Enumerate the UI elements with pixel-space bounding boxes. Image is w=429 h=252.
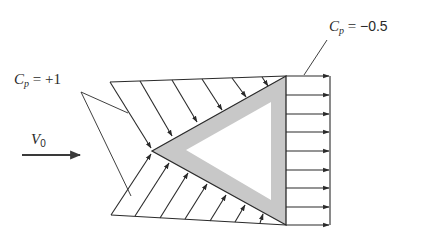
freestream-subscript: 0	[40, 138, 46, 149]
cp-back-value: −0.5	[360, 18, 388, 34]
freestream-symbol: V	[31, 131, 40, 147]
cp-front-label: Cp = +1	[14, 72, 61, 89]
cp-front-symbol: C	[14, 71, 24, 87]
triangle-prism	[152, 76, 286, 225]
pressure-diagram	[0, 0, 429, 252]
cp-front-equals: =	[29, 71, 45, 87]
cp-back-label: Cp = −0.5	[329, 19, 388, 36]
back-suction-arrows	[286, 76, 330, 225]
freestream-label: V0	[31, 132, 46, 149]
cp-front-value: +1	[45, 71, 61, 87]
cp-back-symbol: C	[329, 18, 339, 34]
cp-back-equals: =	[344, 18, 360, 34]
